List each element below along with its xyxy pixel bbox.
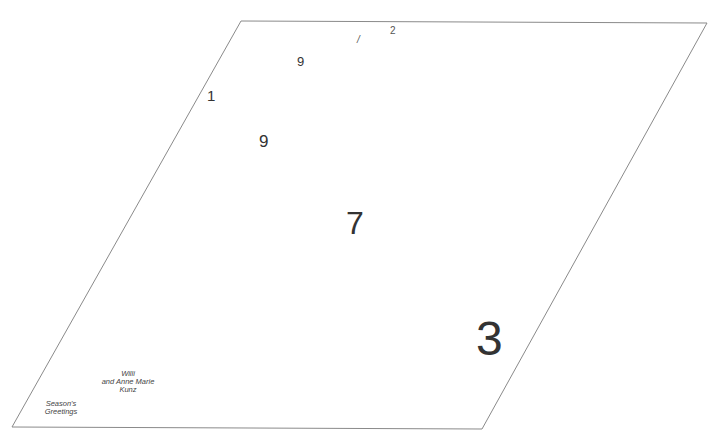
greeting-line2: Greetings <box>40 408 82 416</box>
slash-mark: / <box>357 35 360 45</box>
numeral-nine-medium: 9 <box>259 133 268 150</box>
numeral-three: 3 <box>476 315 503 363</box>
numeral-one: 1 <box>207 88 215 103</box>
sender-name-line3: Kunz <box>100 386 156 394</box>
greeting-text: Season's Greetings <box>40 400 82 416</box>
numeral-two: 2 <box>390 26 396 36</box>
numeral-nine-small: 9 <box>297 55 304 68</box>
numeral-seven: 7 <box>346 207 364 239</box>
sender-names: Willi and Anne Marie Kunz <box>100 370 156 394</box>
